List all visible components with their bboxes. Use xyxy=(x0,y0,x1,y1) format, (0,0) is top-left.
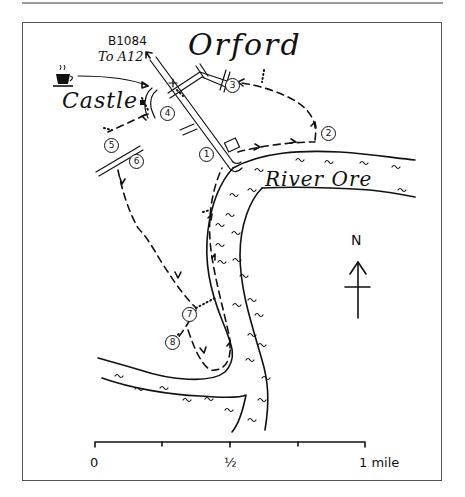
waypoint-2: 2 xyxy=(321,126,336,141)
waypoint-7: 7 xyxy=(182,307,197,322)
road-arrow-a12 xyxy=(146,52,152,58)
scale-bar xyxy=(95,442,365,447)
waypoint-5: 5 xyxy=(104,138,119,153)
waypoint-4: 4 xyxy=(160,106,175,121)
road-gate-mark xyxy=(180,124,197,135)
castle-label: Castle xyxy=(62,88,138,113)
waypoint-1: 1 xyxy=(199,147,214,162)
walk-route-map xyxy=(0,0,465,497)
route-4-5 xyxy=(108,115,145,132)
spur-dots xyxy=(196,298,215,308)
river-bank-east xyxy=(240,188,268,430)
side-road-east xyxy=(168,64,230,98)
north-label: N xyxy=(351,232,361,248)
scale-label-1-mile: 1 mile xyxy=(359,455,399,470)
scale-label-half: ½ xyxy=(224,455,237,470)
north-arrow-icon xyxy=(345,262,370,318)
coffee-cup-icon xyxy=(53,65,73,86)
scale-label-0: 0 xyxy=(90,455,98,470)
footpath-dots xyxy=(262,70,264,82)
route-arrow xyxy=(290,139,296,143)
church-cross-icon xyxy=(169,79,177,87)
route-arrow xyxy=(311,122,316,128)
route-2-3 xyxy=(236,82,316,140)
castle-keep-icon xyxy=(140,100,145,105)
river-bank-north xyxy=(233,151,415,168)
car-park-icon xyxy=(224,138,239,152)
river-label: River Ore xyxy=(265,167,372,191)
town-name-label: Orford xyxy=(188,27,302,62)
route-6-7 xyxy=(118,170,196,308)
waypoint-8: 8 xyxy=(165,335,180,350)
route-arrow xyxy=(175,272,181,278)
river-bank-south-branch xyxy=(102,378,246,432)
route-arrow xyxy=(227,342,230,348)
waypoint-3: 3 xyxy=(225,78,240,93)
river-ripples xyxy=(115,159,406,422)
castle-lane xyxy=(145,88,157,118)
route-arrow xyxy=(254,144,260,150)
waypoint-6: 6 xyxy=(129,154,144,169)
road-number-label: B1084 xyxy=(108,34,147,48)
road-destination-label: To A12 xyxy=(98,49,144,64)
route-arrow xyxy=(200,347,206,353)
route-1-2 xyxy=(238,142,315,152)
route-8-loop xyxy=(188,168,230,370)
cafe-pointer xyxy=(78,76,148,86)
